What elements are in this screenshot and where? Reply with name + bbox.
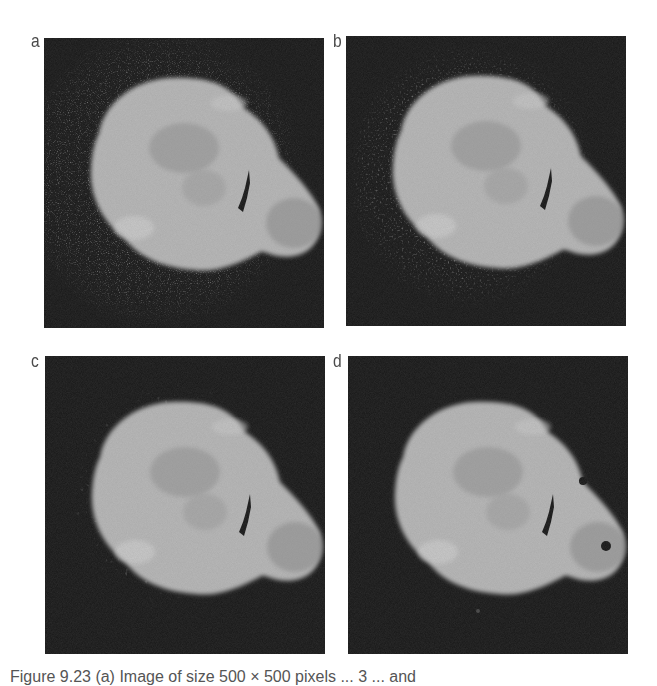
nebula-image-a (44, 38, 324, 328)
figure-caption: Figure 9.23 (a) Image of size 500 × 500 … (10, 668, 650, 686)
image-panel-c (45, 356, 325, 654)
panel-label-a: a (31, 30, 40, 52)
nebula-image-c (45, 356, 325, 654)
nebula-image-b (346, 36, 626, 326)
panel-label-b: b (333, 30, 342, 52)
panel-label-d: d (333, 350, 342, 372)
image-panel-a (44, 38, 324, 328)
image-panel-d (348, 356, 628, 654)
nebula-image-d (348, 356, 628, 654)
image-panel-b (346, 36, 626, 326)
panel-label-c: c (31, 350, 39, 372)
